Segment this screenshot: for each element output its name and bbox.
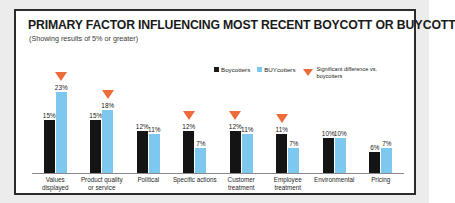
category-label-line: or service: [79, 184, 126, 192]
bar-buycotters: [381, 148, 392, 173]
bar-column: 12%: [137, 131, 148, 173]
bar-value-label: 10%: [334, 130, 347, 137]
bar-column: 7%: [381, 148, 392, 173]
bar-group: 15%18%: [79, 51, 126, 173]
bar-group: 10%10%: [311, 51, 358, 173]
bar-pair: 12%11%: [230, 131, 253, 173]
chart-subtitle: (Showing results of 5% or greater): [29, 34, 138, 43]
bar-boycotters: [276, 134, 287, 173]
bar-column: 11%: [276, 134, 287, 173]
bar-pair: 15%23%: [44, 92, 67, 173]
category-label: Customertreatment: [218, 176, 265, 192]
bar-buycotters: [56, 92, 67, 173]
category-label: Valuesdisplayed: [32, 176, 79, 192]
bar-column: 12%: [230, 131, 241, 173]
category-label-line: displayed: [32, 184, 79, 192]
bar-buycotters: [242, 134, 253, 173]
bar-pair: 12%11%: [137, 131, 160, 173]
bar-column: 7%: [195, 148, 206, 173]
bar-group: 11%7%: [265, 51, 312, 173]
significance-triangle-icon: [229, 111, 241, 120]
significance-triangle-icon: [183, 111, 195, 120]
chart-frame: PRIMARY FACTOR INFLUENCING MOST RECENT B…: [14, 9, 416, 195]
bar-column: 6%: [369, 152, 380, 173]
significance-triangle-icon: [276, 114, 288, 123]
bar-column: 11%: [149, 134, 160, 173]
bar-group: 12%11%: [125, 51, 172, 173]
bar-column: 15%: [90, 120, 101, 173]
bar-pair: 6%7%: [369, 148, 392, 173]
bar-group: 15%23%: [32, 51, 79, 173]
significance-triangle-icon: [102, 90, 114, 99]
bar-column: 7%: [288, 148, 299, 173]
bar-groups: 15%23%15%18%12%11%12%7%12%11%11%7%10%10%…: [32, 51, 404, 173]
bar-value-label: 12%: [182, 123, 195, 130]
bar-value-label: 7%: [382, 140, 391, 147]
category-label: Political: [125, 176, 172, 192]
bar-buycotters: [102, 110, 113, 173]
bar-buycotters: [149, 134, 160, 173]
bar-pair: 15%18%: [90, 110, 113, 173]
title-tail-text: COTT: [423, 17, 455, 32]
category-label: Product qualityor service: [79, 176, 126, 192]
bar-column: 23%: [56, 92, 67, 173]
bar-boycotters: [323, 138, 334, 173]
category-label-line: Employee: [265, 176, 312, 184]
bar-value-label: 12%: [229, 123, 242, 130]
category-label-line: treatment: [265, 184, 312, 192]
bar-column: 10%: [335, 138, 346, 173]
title-main-text: PRIMARY FACTOR INFLUENCING MOST RECENT B…: [28, 17, 397, 32]
category-label-line: Customer: [218, 176, 265, 184]
bar-pair: 11%7%: [276, 134, 299, 173]
bar-value-label: 15%: [89, 112, 102, 119]
bar-value-label: 12%: [136, 123, 149, 130]
category-label-line: treatment: [218, 184, 265, 192]
category-labels: ValuesdisplayedProduct qualityor service…: [32, 176, 404, 192]
bar-column: 18%: [102, 110, 113, 173]
category-label-line: Specific actions: [172, 176, 219, 184]
bar-boycotters: [90, 120, 101, 173]
bar-value-label: 7%: [289, 140, 298, 147]
category-label-line: Environmental: [311, 176, 358, 184]
category-label: Environmental: [311, 176, 358, 192]
bar-boycotters: [230, 131, 241, 173]
bar-value-label: 18%: [101, 102, 114, 109]
bar-buycotters: [195, 148, 206, 173]
bar-value-label: 11%: [276, 126, 288, 133]
bar-group: 6%7%: [358, 51, 405, 173]
bar-value-label: 23%: [55, 84, 68, 91]
bar-pair: 12%7%: [183, 131, 206, 173]
bar-group: 12%7%: [172, 51, 219, 173]
category-label: Pricing: [358, 176, 405, 192]
category-label-line: Values: [32, 176, 79, 184]
bar-column: 12%: [183, 131, 194, 173]
bar-value-label: 11%: [241, 126, 253, 133]
category-label: Specific actions: [172, 176, 219, 192]
category-label-line: Political: [125, 176, 172, 184]
bar-boycotters: [183, 131, 194, 173]
category-label: Employeetreatment: [265, 176, 312, 192]
bar-pair: 10%10%: [323, 138, 346, 173]
bar-column: 10%: [323, 138, 334, 173]
plot-area: 15%23%15%18%12%11%12%7%12%11%11%7%10%10%…: [32, 51, 404, 173]
category-label-line: Product quality: [79, 176, 126, 184]
bar-value-label: 7%: [196, 140, 205, 147]
bar-boycotters: [137, 131, 148, 173]
page-title: PRIMARY FACTOR INFLUENCING MOST RECENT B…: [28, 17, 455, 32]
category-label-line: Pricing: [358, 176, 405, 184]
bar-value-label: 10%: [322, 130, 335, 137]
bar-column: 11%: [242, 134, 253, 173]
title-emphasis-text: BUY: [397, 17, 423, 32]
bar-value-label: 6%: [370, 144, 379, 151]
bar-boycotters: [369, 152, 380, 173]
bar-value-label: 11%: [148, 126, 160, 133]
bar-boycotters: [44, 120, 55, 173]
bar-group: 12%11%: [218, 51, 265, 173]
significance-triangle-icon: [55, 72, 67, 81]
bar-buycotters: [288, 148, 299, 173]
bar-buycotters: [335, 138, 346, 173]
bar-value-label: 15%: [43, 112, 56, 119]
bar-column: 15%: [44, 120, 55, 173]
axis-baseline: [32, 173, 404, 174]
